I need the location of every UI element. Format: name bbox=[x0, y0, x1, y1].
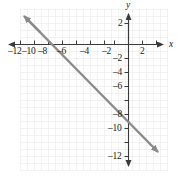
y-tick-label-pos2: 2 bbox=[118, 19, 122, 29]
x-tick-label-neg6: –6 bbox=[57, 47, 66, 57]
y-tick-label-neg12: –12 bbox=[108, 152, 121, 162]
x-tick-label-neg12: –12 bbox=[8, 47, 21, 57]
x-tick-label-neg4: –4 bbox=[80, 47, 89, 57]
x-tick-marks bbox=[21, 41, 157, 45]
plotted-line-reverse-arrow bbox=[24, 16, 40, 32]
y-tick-label-neg6: –6 bbox=[113, 82, 122, 92]
x-tick-label-neg10: –10 bbox=[22, 47, 35, 57]
graph-canvas bbox=[0, 0, 180, 181]
y-tick-label-neg10: –10 bbox=[108, 124, 121, 134]
y-tick-label-neg2: –2 bbox=[113, 54, 122, 64]
x-tick-label-pos2: 2 bbox=[140, 47, 144, 57]
coordinate-graph: –12 –10 –8 –6 –4 –2 2 2 –2 –4 –6 –8 –10 … bbox=[0, 0, 180, 181]
x-tick-label-neg2: –2 bbox=[102, 47, 111, 57]
y-axis-name: y bbox=[126, 1, 130, 11]
y-tick-label-neg8: –8 bbox=[113, 110, 122, 120]
x-tick-label-neg8: –8 bbox=[38, 47, 47, 57]
plotted-line bbox=[27, 19, 158, 152]
y-tick-label-neg4: –4 bbox=[113, 68, 122, 78]
y-tick-marks bbox=[125, 24, 129, 157]
x-axis-name: x bbox=[169, 40, 173, 50]
